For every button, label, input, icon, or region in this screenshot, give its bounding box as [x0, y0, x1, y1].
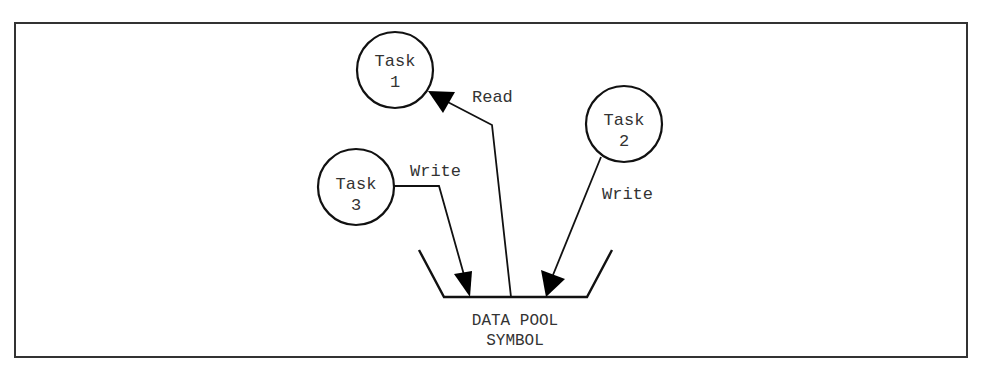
diagram-frame — [15, 23, 967, 357]
task3-write-connector-line — [394, 186, 464, 275]
task2-write-connector-line — [553, 157, 601, 275]
task2-node: Task 2 — [586, 86, 662, 162]
read-arrowhead-icon — [428, 91, 455, 113]
pool-caption-line2: SYMBOL — [486, 332, 544, 350]
task1-label-line1: Task — [375, 52, 416, 71]
task2-label-line1: Task — [604, 111, 645, 130]
pool-caption-line1: DATA POOL — [472, 312, 558, 330]
task3-node: Task 3 — [318, 149, 394, 225]
read-label: Read — [472, 88, 513, 107]
read-connector-line — [440, 98, 511, 297]
task3-label-line2: 3 — [351, 196, 361, 215]
task1-node: Task 1 — [357, 32, 433, 108]
task3-write-label: Write — [410, 162, 461, 181]
task2-label-line2: 2 — [619, 132, 629, 151]
data-pool-symbol — [419, 250, 612, 297]
data-pool-diagram: Read Write Write Task 1 Task 2 Task 3 DA… — [0, 0, 982, 372]
task3-label-line1: Task — [336, 175, 377, 194]
task1-label-line2: 1 — [390, 73, 400, 92]
task3-write-arrowhead-icon — [454, 271, 472, 297]
task2-write-label: Write — [602, 185, 653, 204]
